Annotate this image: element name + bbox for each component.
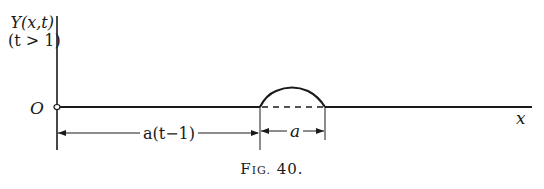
origin-label: O [30,98,44,118]
origin-marker [54,105,60,110]
dimension-left-label: a(t−1) [140,124,198,143]
caption-number: 40. [271,160,304,178]
caption-smallcaps: IG. [252,164,271,177]
pulse-bump [260,88,325,108]
y-axis-label: Y(x,t) (t > 1) [8,14,54,50]
x-axis-label: x [516,108,526,128]
figure-caption: FIG. 40. [0,160,544,178]
y-axis-label-line2: (t > 1) [8,32,54,50]
caption-first: F [240,160,251,178]
y-axis-label-line1: Y(x,t) [8,14,54,32]
dimension-right-label: a [287,121,303,141]
